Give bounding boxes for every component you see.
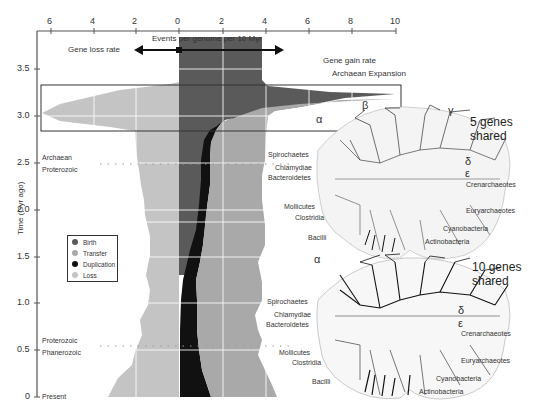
y-tick-label: 1.5: [17, 251, 30, 261]
gene-gain-rate-label: Gene gain rate: [323, 56, 376, 65]
tree2-alpha: α: [314, 253, 320, 265]
legend-label: Transfer: [83, 250, 107, 257]
tree1-taxon-bacteroidetes: Bacteroidetes: [268, 174, 311, 181]
x-axis-title: Events per genome per 10 Myr: [152, 34, 262, 43]
tree1-gamma: γ: [448, 104, 454, 116]
tree1-taxon-spirochaetes: Spirochaetes: [268, 151, 309, 158]
tree1-title-line1: 5 genes: [470, 115, 513, 129]
y-tick-label: 3.0: [17, 110, 30, 120]
gene-rate-chart: [0, 0, 533, 420]
x-tick-label: 4: [90, 16, 95, 26]
tree1-taxon-cyanobacteria: Cyanobacteria: [443, 225, 488, 232]
tree1-taxon-actinobacteria: Actinobacteria: [425, 238, 469, 245]
y-tick-label: 2.5: [17, 157, 30, 167]
x-tick-label: 6: [47, 16, 52, 26]
tree1-title-line2: shared: [470, 129, 507, 143]
x-tick-label: 10: [390, 16, 400, 26]
tree2-epsilon: ε: [458, 317, 463, 329]
loss-swatch-icon: [72, 272, 78, 278]
y-tick-label: 0: [25, 391, 30, 401]
x-tick-label: 0: [175, 16, 180, 26]
tree1-delta: δ: [465, 155, 471, 167]
tree1-taxon-clostridia: Clostridia: [295, 214, 324, 221]
era-archaean-label: Archaean: [42, 154, 72, 161]
legend-label: Birth: [83, 239, 96, 246]
transfer-swatch-icon: [72, 250, 78, 256]
arrow-right-head: [275, 45, 284, 55]
tree2-title-line1: 10 genes: [472, 260, 521, 274]
x-tick-label: 6: [305, 16, 310, 26]
tree2-taxon-clostridia: Clostridia: [292, 359, 321, 366]
y-tick-label: 0.5: [17, 344, 30, 354]
tree2-taxon-cyanobacteria: Cyanobacteria: [436, 375, 481, 382]
duplication-swatch-icon: [72, 261, 78, 267]
x-tick-label: 2: [132, 16, 137, 26]
present-label: Present: [42, 393, 66, 400]
tree2-taxon-spirochaetes: Spirochaetes: [267, 298, 308, 305]
legend-item-transfer: Transfer: [72, 248, 117, 258]
tree1-epsilon: ε: [465, 167, 470, 179]
y-tick-label: 3.5: [17, 63, 30, 73]
tree2-taxon-bacteroidetes: Bacteroidetes: [266, 321, 309, 328]
legend-label: Duplication: [83, 261, 115, 268]
legend-item-birth: Birth: [72, 237, 117, 247]
legend-label: Loss: [83, 272, 97, 279]
tree2-taxon-bacilli: Bacilli: [312, 378, 330, 385]
tree2-taxon-mollicutes: Mollicutes: [279, 349, 310, 356]
y-tick-label: 1.0: [17, 297, 30, 307]
tree2-taxon-crenarchaeotes: Crenarchaeotes: [461, 330, 511, 337]
figure: 6 4 2 0 2 4 6 8 10 3.5 3.0 2.5 2.0 1.5 1…: [0, 0, 533, 420]
legend: Birth Transfer Duplication Loss: [67, 235, 118, 282]
x-tick-label: 8: [348, 16, 353, 26]
era-proterozoic-label: Proterozoic: [42, 166, 77, 173]
zero-marker: [176, 47, 182, 53]
tree1-taxon-chlamydiae: Chlamydiae: [275, 164, 312, 171]
tree2-taxon-euryarchaeotes: Euryarchaeotes: [461, 357, 510, 364]
tree1-alpha: α: [316, 113, 322, 125]
tree1-taxon-euryarchaeotes: Euryarchaeotes: [466, 207, 515, 214]
tree2-delta: δ: [458, 304, 464, 316]
tree1-beta: β: [362, 99, 368, 111]
arrow-left-head: [134, 45, 143, 55]
birth-swatch-icon: [72, 239, 78, 245]
era-phanerozoic-label: Phanerozoic: [42, 349, 81, 356]
gene-loss-rate-label: Gene loss rate: [68, 45, 120, 54]
tree2-title-line2: shared: [472, 274, 509, 288]
legend-item-duplication: Duplication: [72, 259, 117, 269]
era-proterozoic-label: Proterozoic: [42, 337, 77, 344]
tree1-taxon-mollicutes: Mollicutes: [284, 203, 315, 210]
tree1-taxon-crenarchaeotes: Crenarchaeotes: [466, 181, 516, 188]
legend-item-loss: Loss: [72, 270, 117, 280]
x-tick-label: 2: [219, 16, 224, 26]
tree2-taxon-chlamydiae: Chlamydiae: [274, 311, 311, 318]
y-axis-title: Time (Gyr ago): [16, 182, 25, 236]
tree1-taxon-bacilli: Bacilli: [308, 234, 326, 241]
archaean-expansion-label: Archaean Expansion: [332, 69, 406, 78]
tree2-taxon-actinobacteria: Actinobacteria: [419, 388, 463, 395]
x-tick-label: 4: [262, 16, 267, 26]
